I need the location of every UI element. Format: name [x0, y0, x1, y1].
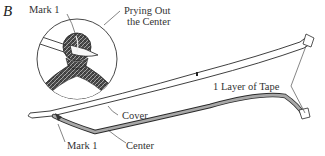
label-prying-line2: the Center [127, 16, 170, 27]
center-leader [108, 130, 126, 143]
label-mark1-bottom: Mark 1 [67, 140, 98, 151]
label-prying-line1: Prying Out [124, 5, 170, 16]
label-center: Center [126, 140, 154, 151]
cover-leader [108, 106, 118, 115]
label-cover: Cover [122, 110, 148, 121]
mark1-bottom-leader [58, 124, 65, 142]
label-tape: 1 Layer of Tape [213, 81, 279, 92]
label-mark1-top: Mark 1 [29, 4, 60, 15]
prying-leader [104, 11, 120, 25]
